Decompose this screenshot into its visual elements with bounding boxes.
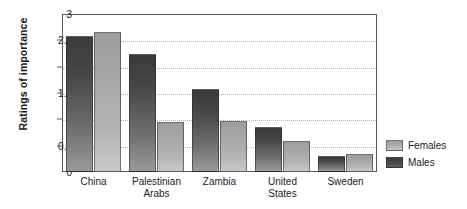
- y-axis-title: Ratings of importance: [17, 0, 29, 149]
- bar-males-sweden: [318, 156, 345, 172]
- x-axis-label: Sweden: [301, 176, 391, 188]
- bar-females-sweden: [346, 154, 373, 172]
- bar-females-china: [94, 32, 121, 172]
- chart-legend: FemalesMales: [386, 138, 446, 172]
- males-swatch: [386, 157, 403, 168]
- legend-label: Males: [408, 157, 435, 168]
- females-swatch: [386, 140, 403, 151]
- legend-item-males: Males: [386, 155, 446, 170]
- bar-females-united-states: [283, 141, 310, 172]
- bar-males-united-states: [255, 127, 282, 172]
- bars-layer: [62, 14, 377, 172]
- bar-males-china: [66, 36, 93, 172]
- bar-chart: Ratings of importance 00.511.522.53 Chin…: [0, 0, 467, 209]
- bar-males-zambia: [192, 89, 219, 172]
- bar-females-palestinian-arabs: [157, 122, 184, 172]
- bar-females-zambia: [220, 121, 247, 172]
- bar-males-palestinian-arabs: [129, 54, 156, 173]
- legend-label: Females: [408, 140, 446, 151]
- legend-item-females: Females: [386, 138, 446, 153]
